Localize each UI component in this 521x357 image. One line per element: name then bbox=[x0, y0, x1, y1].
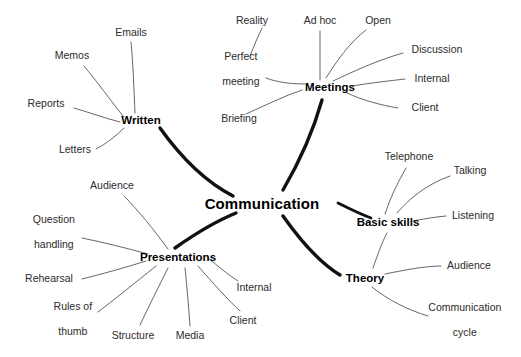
leaf-node-perfect-meeting[interactable]: Perfect meeting bbox=[210, 37, 259, 100]
leaf-line-2: thumb bbox=[58, 324, 87, 336]
root-node-communication[interactable]: Communication bbox=[205, 196, 320, 213]
leaf-line-2: meeting bbox=[222, 74, 259, 86]
branch-node-meetings[interactable]: Meetings bbox=[305, 81, 355, 94]
leaf-node-media[interactable]: Media bbox=[176, 330, 205, 342]
branch-node-basic-skills[interactable]: Basic skills bbox=[357, 216, 420, 229]
main-branch-written bbox=[160, 128, 233, 196]
leaf-node-reality[interactable]: Reality bbox=[236, 15, 268, 27]
leaf-line-1: Perfect bbox=[224, 49, 257, 61]
leaf-node-discussion[interactable]: Discussion bbox=[412, 44, 463, 56]
leaf-node-presentations-internal[interactable]: Internal bbox=[236, 282, 271, 294]
leaf-node-theory-audience[interactable]: Audience bbox=[447, 260, 491, 272]
leaf-node-memos[interactable]: Memos bbox=[55, 50, 89, 62]
leaf-node-communication-cycle[interactable]: Communication cycle bbox=[417, 288, 502, 351]
branch-node-presentations[interactable]: Presentations bbox=[140, 251, 216, 264]
main-branch-theory bbox=[283, 216, 340, 275]
leaf-node-listening[interactable]: Listening bbox=[452, 210, 494, 222]
mind-map-diagram: Communication Written Emails Memos Repor… bbox=[0, 0, 521, 357]
leaf-node-presentations-client[interactable]: Client bbox=[230, 315, 257, 327]
leaf-node-ad-hoc[interactable]: Ad hoc bbox=[304, 15, 337, 27]
leaf-node-structure[interactable]: Structure bbox=[112, 330, 155, 342]
sub-branches-basic-skills bbox=[385, 168, 450, 221]
branch-node-written[interactable]: Written bbox=[121, 114, 160, 127]
leaf-node-rules-of-thumb[interactable]: Rules of thumb bbox=[42, 287, 92, 350]
leaf-line-1: Communication bbox=[428, 300, 501, 312]
leaf-line-2: handling bbox=[34, 237, 74, 249]
leaf-line-2: cycle bbox=[453, 325, 477, 337]
leaf-node-emails[interactable]: Emails bbox=[115, 27, 147, 39]
leaf-node-question-handling[interactable]: Question handling bbox=[21, 200, 75, 263]
leaf-node-reports[interactable]: Reports bbox=[28, 98, 65, 110]
leaf-node-telephone[interactable]: Telephone bbox=[385, 151, 433, 163]
leaf-node-open[interactable]: Open bbox=[365, 15, 391, 27]
leaf-node-meetings-client[interactable]: Client bbox=[412, 102, 439, 114]
leaf-node-meetings-internal[interactable]: Internal bbox=[414, 73, 449, 85]
leaf-node-presentations-audience[interactable]: Audience bbox=[90, 180, 134, 192]
leaf-node-talking[interactable]: Talking bbox=[454, 165, 487, 177]
leaf-line-1: Rules of bbox=[54, 299, 93, 311]
leaf-node-briefing[interactable]: Briefing bbox=[221, 113, 257, 125]
main-branch-meetings bbox=[283, 100, 322, 190]
branch-node-theory[interactable]: Theory bbox=[346, 272, 384, 285]
leaf-node-rehearsal[interactable]: Rehearsal bbox=[25, 273, 73, 285]
leaf-line-1: Question bbox=[33, 212, 75, 224]
sub-branches-meetings bbox=[246, 28, 405, 114]
main-branch-presentations bbox=[175, 213, 236, 248]
leaf-node-letters[interactable]: Letters bbox=[59, 144, 91, 156]
